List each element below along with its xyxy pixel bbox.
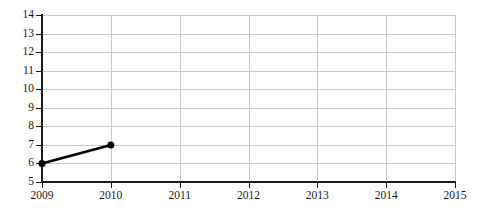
y-axis-tick-label: 14 bbox=[8, 9, 34, 21]
gridline-vertical bbox=[317, 15, 318, 182]
x-axis-tick-label: 2010 bbox=[81, 190, 141, 202]
y-axis-tick bbox=[36, 71, 42, 72]
x-axis-tick-label: 2014 bbox=[356, 190, 416, 202]
x-axis-tick bbox=[317, 183, 318, 188]
y-axis-tick bbox=[36, 34, 42, 35]
plot-area bbox=[42, 15, 455, 182]
y-axis-tick bbox=[36, 15, 42, 16]
line-chart: 14 13 12 11 10 9 8 7 6 5 2009 2010 2011 … bbox=[0, 0, 492, 217]
y-axis-tick-label: 6 bbox=[8, 157, 34, 169]
y-axis-tick-label: 11 bbox=[8, 65, 34, 77]
x-axis-tick bbox=[249, 183, 250, 188]
x-axis-tick bbox=[455, 183, 456, 188]
x-axis-tick bbox=[111, 183, 112, 188]
y-axis-tick-label: 8 bbox=[8, 120, 34, 132]
gridline-vertical bbox=[249, 15, 250, 182]
x-axis-tick-label: 2013 bbox=[287, 190, 347, 202]
gridline-vertical bbox=[386, 15, 387, 182]
y-axis-tick bbox=[36, 89, 42, 90]
y-axis-tick-label: 13 bbox=[8, 28, 34, 40]
gridline-vertical bbox=[455, 15, 456, 182]
x-axis-tick-label: 2011 bbox=[150, 190, 210, 202]
y-axis-line bbox=[41, 14, 43, 183]
y-axis-tick bbox=[36, 126, 42, 127]
x-axis-tick-label: 2009 bbox=[12, 190, 72, 202]
y-axis-tick-label: 9 bbox=[8, 102, 34, 114]
gridline-vertical bbox=[111, 15, 112, 182]
y-axis-tick-label: 12 bbox=[8, 46, 34, 58]
x-axis-tick bbox=[42, 183, 43, 188]
y-axis-tick bbox=[36, 108, 42, 109]
y-axis-tick-label: 5 bbox=[8, 176, 34, 188]
y-axis-tick-label: 7 bbox=[8, 139, 34, 151]
y-axis-tick bbox=[36, 145, 42, 146]
y-axis-tick bbox=[36, 52, 42, 53]
x-axis-tick bbox=[386, 183, 387, 188]
y-axis-tick-label: 10 bbox=[8, 83, 34, 95]
x-axis-tick bbox=[180, 183, 181, 188]
x-axis-tick-label: 2015 bbox=[425, 190, 485, 202]
gridline-vertical bbox=[180, 15, 181, 182]
y-axis-tick bbox=[36, 163, 42, 164]
y-axis-labels: 14 13 12 11 10 9 8 7 6 5 bbox=[0, 0, 34, 217]
x-axis-tick-label: 2012 bbox=[219, 190, 279, 202]
